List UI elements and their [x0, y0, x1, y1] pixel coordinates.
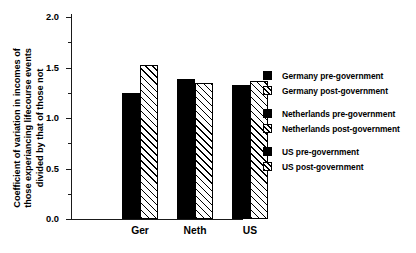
y-tick-label: 1.5 [46, 63, 59, 73]
x-axis-label-us: US [243, 225, 257, 236]
legend-swatch-solid-icon [263, 147, 272, 156]
y-tick-minor [68, 143, 71, 144]
y-tick-major: 1.5 [66, 68, 71, 69]
y-axis-title-line-3: divided by that of those not [35, 69, 47, 188]
y-axis-title-line-2: those experiancing lifecourse events [23, 48, 35, 208]
legend-item[interactable]: US pre-government [263, 144, 413, 159]
legend-label: Netherlands pre-government [282, 109, 395, 119]
y-tick-minor [68, 93, 71, 94]
legend-group-1: Germany pre-governmentGermany post-gover… [263, 68, 413, 98]
legend: Germany pre-governmentGermany post-gover… [263, 68, 413, 174]
y-tick-label: 1.0 [46, 113, 59, 123]
legend-group-2: Netherlands pre-governmentNetherlands po… [263, 106, 413, 136]
x-axis-label-neth: Neth [184, 225, 207, 236]
bar-neth-pre-government [177, 79, 195, 219]
legend-swatch-hatched-icon [263, 124, 272, 133]
plot-area: 0.00.51.01.52.0 GerNethUS [71, 17, 243, 219]
bar-us-pre-government [232, 85, 250, 219]
bar-chart: Coefficient of variation in incomes of t… [0, 0, 416, 253]
y-tick-label: 0.0 [46, 214, 59, 224]
y-tick-major: 0.0 [66, 219, 71, 220]
legend-label: Germany post-government [282, 86, 388, 96]
bar-ger-post-government [140, 65, 158, 219]
y-tick-major: 0.5 [66, 169, 71, 170]
legend-label: Netherlands post-government [282, 124, 400, 134]
y-axis-title: Coefficient of variation in incomes of t… [7, 22, 51, 234]
legend-swatch-solid-icon [263, 71, 272, 80]
x-axis-label-ger: Ger [131, 225, 149, 236]
y-tick-major: 1.0 [66, 118, 71, 119]
legend-swatch-solid-icon [263, 109, 272, 118]
y-tick-minor [68, 42, 71, 43]
legend-item[interactable]: Netherlands post-government [263, 121, 413, 136]
legend-label: US post-government [282, 162, 363, 172]
bar-ger-pre-government [122, 93, 140, 219]
legend-item[interactable]: US post-government [263, 159, 413, 174]
y-tick-label: 0.5 [46, 164, 59, 174]
legend-label: US pre-government [282, 147, 359, 157]
legend-label: Germany pre-government [282, 71, 383, 81]
legend-swatch-hatched-icon [263, 162, 272, 171]
y-tick-label: 2.0 [46, 12, 59, 22]
y-axis-line [71, 14, 72, 219]
legend-item[interactable]: Germany pre-government [263, 68, 413, 83]
x-axis-line [69, 219, 243, 220]
legend-item[interactable]: Germany post-government [263, 83, 413, 98]
bar-neth-post-government [195, 83, 213, 219]
y-tick-major: 2.0 [66, 17, 71, 18]
y-axis-title-line-1: Coefficient of variation in incomes of [12, 48, 24, 207]
legend-item[interactable]: Netherlands pre-government [263, 106, 413, 121]
y-tick-minor [68, 194, 71, 195]
legend-swatch-hatched-icon [263, 86, 272, 95]
legend-group-3: US pre-governmentUS post-government [263, 144, 413, 174]
